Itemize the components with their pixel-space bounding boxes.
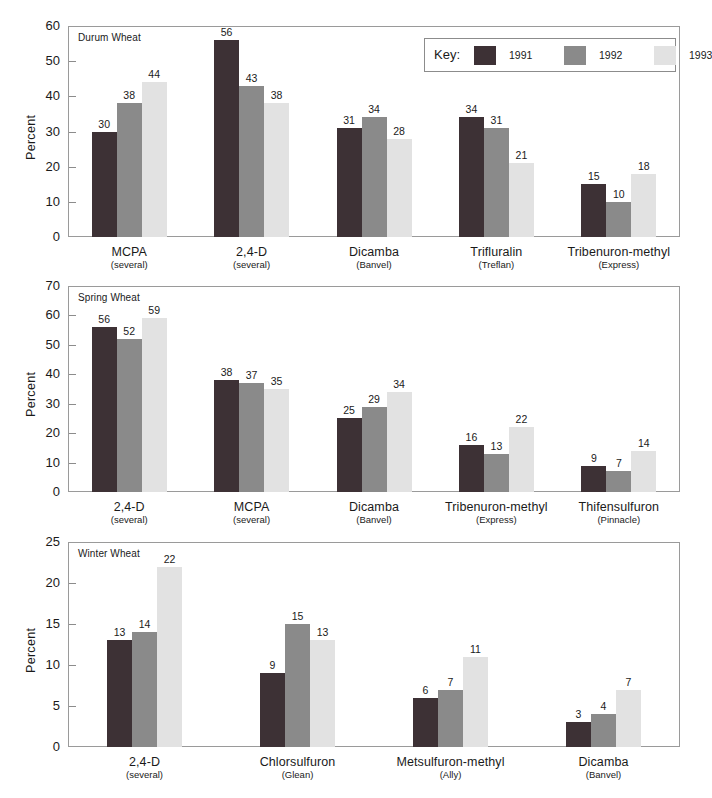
category-name: Thifensulfuron (558, 500, 680, 514)
bar (463, 657, 488, 747)
y-tick-label: 20 (30, 159, 60, 174)
y-tick-label: 10 (30, 194, 60, 209)
y-tick-label: 10 (30, 657, 60, 672)
category-name: 2,4-D (68, 500, 190, 514)
legend-label-1993: 1993 (689, 49, 712, 61)
bar (264, 389, 289, 492)
category-subtitle: (Ally) (374, 769, 527, 781)
y-tick-mark (69, 433, 76, 434)
category-name: 2,4-D (190, 245, 312, 259)
category-subtitle: (Express) (435, 514, 557, 526)
bar (157, 567, 182, 747)
legend-label-1991: 1991 (509, 49, 532, 61)
category-subtitle: (Banvel) (313, 514, 435, 526)
bar-value-label: 22 (151, 553, 188, 565)
y-tick-mark (69, 463, 76, 464)
x-axis-category-label: Dicamba(Banvel) (313, 500, 435, 526)
bar (214, 40, 239, 237)
category-name: Dicamba (313, 245, 435, 259)
y-tick-label: 0 (30, 229, 60, 244)
bar (413, 698, 438, 747)
x-axis-category-label: Metsulfuron-methyl(Ally) (374, 755, 527, 781)
bar (264, 103, 289, 237)
bar-value-label: 38 (258, 89, 295, 101)
bar (214, 380, 239, 492)
bar-value-label: 13 (304, 626, 341, 638)
bar-value-label: 43 (233, 72, 270, 84)
y-tick-label: 50 (30, 53, 60, 68)
bar (509, 163, 534, 237)
bar (631, 174, 656, 237)
y-tick-label: 20 (30, 575, 60, 590)
legend: Key: 1991 1992 1993 (424, 38, 676, 72)
category-subtitle: (Pinnacle) (558, 514, 680, 526)
bar-value-label: 11 (457, 643, 494, 655)
category-name: Dicamba (313, 500, 435, 514)
bar-value-label: 56 (208, 26, 245, 38)
y-tick-label: 15 (30, 616, 60, 631)
y-tick-label: 0 (30, 484, 60, 499)
y-tick-mark (69, 132, 76, 133)
category-name: Tribenuron-methyl (558, 245, 680, 259)
category-name: Tribenuron-methyl (435, 500, 557, 514)
bar (484, 454, 509, 492)
bar (107, 640, 132, 747)
bar (92, 327, 117, 492)
y-tick-label: 25 (30, 534, 60, 549)
y-tick-label: 0 (30, 739, 60, 754)
y-tick-mark (69, 404, 76, 405)
bar (606, 202, 631, 237)
bar-value-label: 28 (381, 125, 418, 137)
bar (142, 318, 167, 492)
bar (117, 339, 142, 492)
category-name: Chlorsulfuron (221, 755, 374, 769)
bar (509, 427, 534, 492)
bar (92, 132, 117, 238)
bar-value-label: 18 (625, 160, 662, 172)
category-name: MCPA (190, 500, 312, 514)
x-axis-category-label: 2,4-D(several) (68, 500, 190, 526)
y-tick-label: 5 (30, 698, 60, 713)
x-axis-category-label: Chlorsulfuron(Glean) (221, 755, 374, 781)
chart-panel-winter-wheat: Winter WheatPercent05101520251314222,4-D… (0, 530, 701, 798)
category-name: Dicamba (527, 755, 680, 769)
bar (591, 714, 616, 747)
y-tick-label: 10 (30, 455, 60, 470)
bar (606, 471, 631, 492)
legend-key-label: Key: (434, 47, 460, 62)
bar (239, 86, 264, 237)
bar (459, 445, 484, 492)
x-axis-category-label: 2,4-D(several) (68, 755, 221, 781)
bar-value-label: 35 (258, 375, 295, 387)
bar-value-label: 15 (279, 610, 316, 622)
bar (566, 722, 591, 747)
bar (239, 383, 264, 492)
y-tick-mark (69, 583, 76, 584)
bar (387, 139, 412, 237)
bar (142, 82, 167, 237)
y-tick-mark (69, 374, 76, 375)
bar-value-label: 34 (381, 378, 418, 390)
bar-value-label: 59 (136, 304, 173, 316)
y-tick-label: 70 (30, 278, 60, 293)
category-name: Trifluralin (435, 245, 557, 259)
bar (484, 128, 509, 237)
bar-value-label: 22 (503, 413, 540, 425)
y-tick-mark (69, 624, 76, 625)
y-tick-mark (69, 96, 76, 97)
bar-value-label: 15 (575, 170, 612, 182)
bar-value-label: 34 (356, 103, 393, 115)
bar (132, 632, 157, 747)
y-tick-mark (69, 706, 76, 707)
y-tick-mark (69, 202, 76, 203)
y-tick-label: 40 (30, 366, 60, 381)
category-subtitle: (several) (68, 769, 221, 781)
bar (631, 451, 656, 492)
legend-swatch-1992 (564, 46, 586, 65)
x-axis-category-label: Thifensulfuron(Pinnacle) (558, 500, 680, 526)
bar (438, 690, 463, 747)
chart-title: Spring Wheat (78, 292, 140, 303)
bar (581, 466, 606, 492)
legend-label-1992: 1992 (599, 49, 622, 61)
